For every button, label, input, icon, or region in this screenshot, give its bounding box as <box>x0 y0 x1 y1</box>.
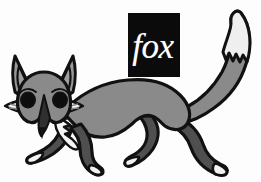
fox-logo-text: fox <box>132 29 173 64</box>
eye-right <box>53 92 67 107</box>
eye-left <box>21 92 35 107</box>
fox-logo-box: fox <box>128 13 180 77</box>
tail-tip <box>223 11 250 62</box>
fox-artwork: fox <box>0 0 261 182</box>
